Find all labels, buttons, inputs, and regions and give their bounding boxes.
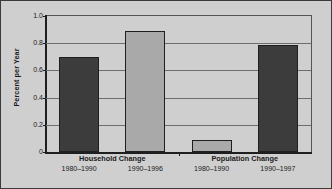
y-axis-tick-labels: 00.20.40.60.81.0 [19, 1, 43, 189]
chart-figure: Percent per Year 00.20.40.60.81.0 Househ… [0, 0, 332, 189]
bar [59, 57, 99, 152]
y-tick-label: 1.0 [21, 12, 43, 19]
plot-area [46, 15, 312, 152]
y-tick-label: 0.6 [21, 66, 43, 73]
x-period-label: 1980–1990 [194, 165, 229, 172]
y-tick-label: 0.4 [21, 93, 43, 100]
bar [258, 45, 298, 152]
x-period-label: 1990–1996 [128, 165, 163, 172]
bar [125, 31, 165, 152]
y-tick-label: 0 [21, 148, 43, 155]
y-tick-mark [43, 125, 47, 126]
y-tick-mark [43, 16, 47, 17]
x-group-title: Household Change [79, 154, 145, 163]
y-tick-mark [43, 70, 47, 71]
x-period-label: 1980–1990 [62, 165, 97, 172]
y-tick-label: 0.2 [21, 120, 43, 127]
bar [192, 140, 232, 152]
x-group-title: Population Change [212, 154, 278, 163]
y-tick-label: 0.8 [21, 39, 43, 46]
x-axis-labels: Household ChangePopulation Change1980–19… [46, 153, 311, 187]
y-tick-mark [43, 98, 47, 99]
y-tick-mark [43, 43, 47, 44]
x-period-label: 1990–1997 [260, 165, 295, 172]
